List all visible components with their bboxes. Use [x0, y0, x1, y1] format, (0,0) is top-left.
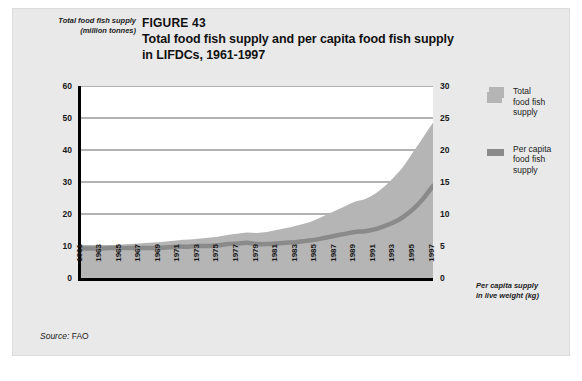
- x-axis-tick-label: 1995: [407, 244, 416, 284]
- area-swatch-icon: [487, 87, 511, 107]
- figure-title-line-1: Total food fish supply and per capita fo…: [142, 31, 462, 47]
- source-value: FAO: [69, 331, 88, 341]
- left-axis-tick-label: 0: [42, 274, 72, 283]
- figure-number: FIGURE 43: [142, 16, 462, 31]
- x-axis-tick-label: 1961: [75, 244, 84, 284]
- right-axis-tick-label: 20: [440, 146, 470, 155]
- legend-item-1-line-2: food fish: [513, 154, 577, 165]
- figure-container: FIGURE 43 Total food fish supply and per…: [0, 0, 582, 381]
- right-axis-tick-label: 15: [440, 178, 470, 187]
- left-axis-tick-label: 30: [42, 178, 72, 187]
- source-label: Source:: [40, 331, 69, 341]
- x-axis-tick-label: 1993: [387, 244, 396, 284]
- legend-item-0-line-2: food fish: [513, 97, 577, 108]
- x-axis-tick-label: 1975: [211, 244, 220, 284]
- left-axis-tick-label: 50: [42, 114, 72, 123]
- right-axis-tick-label: 10: [440, 210, 470, 219]
- x-axis-tick-label: 1989: [348, 244, 357, 284]
- left-axis-caption: Total food fish supply (million tonnes): [36, 16, 136, 36]
- right-axis-caption: Per capita supply in live weight (kg): [476, 281, 576, 301]
- right-axis-tick-label: 0: [440, 274, 470, 283]
- legend-item-total-food-fish-supply: Total food fish supply: [487, 86, 577, 118]
- legend-item-per-capita-food-fish-supply: Per capita food fish supply: [487, 144, 577, 176]
- right-axis-caption-line-2: in live weight (kg): [476, 291, 576, 301]
- legend-item-0-line-3: supply: [513, 107, 577, 118]
- figure-title-line-2: in LIFDCs, 1961-1997: [142, 47, 462, 63]
- right-axis-tick-label: 5: [440, 242, 470, 251]
- x-axis-tick-label: 1967: [133, 244, 142, 284]
- left-axis-caption-line-1: Total food fish supply: [36, 16, 136, 26]
- x-axis-tick-label: 1981: [270, 244, 279, 284]
- left-axis-caption-line-2: (million tonnes): [36, 26, 136, 36]
- left-axis-tick-label: 40: [42, 146, 72, 155]
- left-axis-tick-label: 20: [42, 210, 72, 219]
- right-axis-caption-line-1: Per capita supply: [476, 281, 576, 291]
- left-axis-tick-label: 10: [42, 242, 72, 251]
- source-note: Source: FAO: [40, 331, 89, 341]
- right-axis-tick-label: 25: [440, 114, 470, 123]
- legend-item-1-line-1: Per capita: [513, 144, 577, 155]
- x-axis-tick-label: 1979: [251, 244, 260, 284]
- x-axis-tick-label: 1983: [290, 244, 299, 284]
- left-axis-tick-label: 60: [42, 82, 72, 91]
- x-axis-tick-label: 1965: [114, 244, 123, 284]
- x-axis-tick-label: 1991: [368, 244, 377, 284]
- legend-item-0-line-1: Total: [513, 86, 577, 97]
- title-block: FIGURE 43 Total food fish supply and per…: [142, 16, 462, 63]
- x-axis-tick-label: 1963: [94, 244, 103, 284]
- right-axis-tick-label: 30: [440, 82, 470, 91]
- x-axis-tick-label: 1977: [231, 244, 240, 284]
- chart-legend: Total food fish supply Per capita food f…: [487, 86, 577, 201]
- x-axis-tick-label: 1971: [172, 244, 181, 284]
- x-axis-tick-label: 1997: [427, 244, 436, 284]
- line-swatch-icon: [487, 145, 511, 165]
- legend-item-1-line-3: supply: [513, 165, 577, 176]
- x-axis-tick-label: 1969: [153, 244, 162, 284]
- x-axis-tick-label: 1985: [309, 244, 318, 284]
- x-axis-tick-label: 1987: [329, 244, 338, 284]
- x-axis-tick-label: 1973: [192, 244, 201, 284]
